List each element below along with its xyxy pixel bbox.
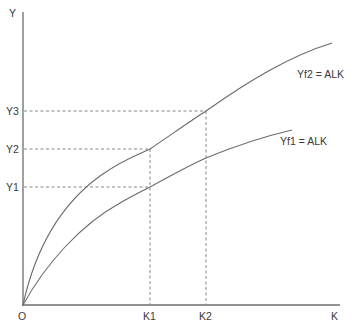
y-axis-label: Y xyxy=(9,7,16,19)
k1-label: K1 xyxy=(143,310,156,322)
origin-label: O xyxy=(18,310,26,322)
y2-label: Y2 xyxy=(6,143,19,155)
x-axis-label: K xyxy=(331,310,338,322)
curve-yf1 xyxy=(23,130,292,305)
k2-label: K2 xyxy=(199,310,212,322)
curve-yf2 xyxy=(23,43,332,305)
y3-label: Y3 xyxy=(6,105,19,117)
curve-yf2-label: Yf2 = ALK xyxy=(297,68,344,80)
production-function-diagram: Y K O Y3 Y2 Y1 K1 K2 Yf2 = ALK Yf1 = ALK xyxy=(0,0,354,323)
y1-label: Y1 xyxy=(6,181,19,193)
curve-yf1-label: Yf1 = ALK xyxy=(280,135,327,147)
